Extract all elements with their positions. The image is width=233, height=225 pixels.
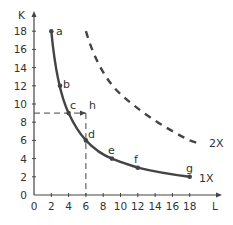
label-h: h bbox=[89, 99, 96, 112]
y-axis-arrow-icon bbox=[32, 11, 37, 17]
h-arrow-icon bbox=[80, 111, 86, 116]
point-f bbox=[136, 165, 141, 170]
y-axis-label: K bbox=[18, 9, 26, 21]
isoquant-chart: 0 2 4 6 8 10 12 14 16 18 L 0 2 4 6 8 10 … bbox=[0, 0, 233, 225]
y-tick: 6 bbox=[20, 134, 27, 146]
y-tick: 10 bbox=[14, 98, 27, 110]
label-b: b bbox=[63, 78, 70, 91]
point-g bbox=[187, 175, 192, 180]
y-tick: 12 bbox=[14, 80, 27, 92]
y-tick: 4 bbox=[20, 153, 27, 165]
point-a bbox=[49, 29, 54, 34]
label-g: g bbox=[186, 162, 193, 175]
x-tick: 14 bbox=[148, 200, 162, 212]
label-f: f bbox=[134, 153, 139, 166]
point-b bbox=[58, 84, 63, 89]
x-tick: 0 bbox=[31, 200, 38, 212]
x-tick: 8 bbox=[100, 200, 107, 212]
x-tick: 16 bbox=[166, 200, 180, 212]
x-tick: 12 bbox=[131, 200, 144, 212]
x-tick: 2 bbox=[48, 200, 55, 212]
y-tick: 8 bbox=[20, 116, 27, 128]
x-tick: 10 bbox=[114, 200, 127, 212]
label-2x: 2X bbox=[209, 137, 224, 150]
x-tick: 18 bbox=[183, 200, 196, 212]
x-axis-arrow-icon bbox=[216, 193, 222, 198]
x-axis-label: L bbox=[212, 200, 218, 212]
guide-lines bbox=[34, 113, 86, 195]
x-tick-labels: 0 2 4 6 8 10 12 14 16 18 L bbox=[31, 200, 218, 212]
label-1x: 1X bbox=[199, 172, 214, 185]
label-c: c bbox=[70, 99, 76, 112]
point-labels: a b c h d e f g 1X 2X bbox=[56, 25, 224, 185]
y-tick: 14 bbox=[14, 62, 28, 74]
isoquant-2x bbox=[86, 31, 200, 144]
label-d: d bbox=[88, 128, 95, 141]
label-a: a bbox=[56, 25, 63, 38]
y-tick-labels: 0 2 4 6 8 10 12 14 16 18 K bbox=[14, 9, 28, 201]
x-tick: 6 bbox=[83, 200, 90, 212]
y-tick: 18 bbox=[14, 25, 27, 37]
y-tick: 0 bbox=[20, 189, 27, 201]
y-tick: 16 bbox=[14, 43, 28, 55]
label-e: e bbox=[108, 144, 115, 157]
x-tick: 4 bbox=[65, 200, 72, 212]
y-tick: 2 bbox=[20, 171, 27, 183]
